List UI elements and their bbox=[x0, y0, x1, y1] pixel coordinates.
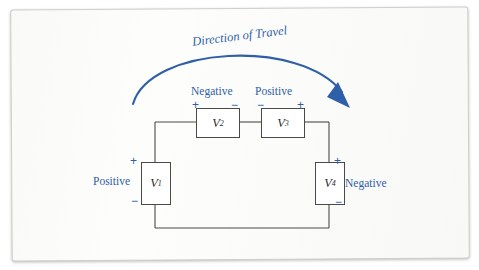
element-v1-side-label: Positive bbox=[93, 176, 130, 188]
element-v4-minus-sign: − bbox=[335, 196, 342, 208]
element-v1-plus-sign: + bbox=[130, 155, 137, 167]
element-v1-subscript: 1 bbox=[158, 179, 162, 188]
screenshot-root: V1 V2 V3 V4 Direction of Travel Negative… bbox=[0, 0, 479, 270]
element-v3-box[interactable]: V3 bbox=[261, 108, 305, 138]
element-v3-label: V bbox=[277, 116, 285, 131]
element-v2-box[interactable]: V2 bbox=[196, 108, 240, 138]
element-v3-side-label: Positive bbox=[255, 86, 292, 98]
element-v4-plus-sign: + bbox=[334, 155, 341, 167]
element-v2-plus-sign: + bbox=[192, 99, 199, 111]
element-v2-subscript: 2 bbox=[220, 119, 224, 128]
element-v2-minus-sign: − bbox=[231, 99, 238, 111]
element-v3-minus-sign: − bbox=[257, 99, 264, 111]
element-v1-minus-sign: − bbox=[131, 195, 138, 207]
element-v4-label: V bbox=[324, 176, 332, 191]
element-v3-subscript: 3 bbox=[285, 119, 289, 128]
element-v3-plus-sign: + bbox=[297, 99, 304, 111]
element-v2-side-label: Negative bbox=[191, 86, 233, 98]
element-v1-box[interactable]: V1 bbox=[141, 162, 171, 205]
element-v2-label: V bbox=[212, 116, 220, 131]
element-v4-subscript: 4 bbox=[332, 179, 336, 188]
element-v4-side-label: Negative bbox=[345, 178, 387, 190]
direction-of-travel-arrow bbox=[133, 56, 350, 108]
element-v1-label: V bbox=[150, 176, 158, 191]
